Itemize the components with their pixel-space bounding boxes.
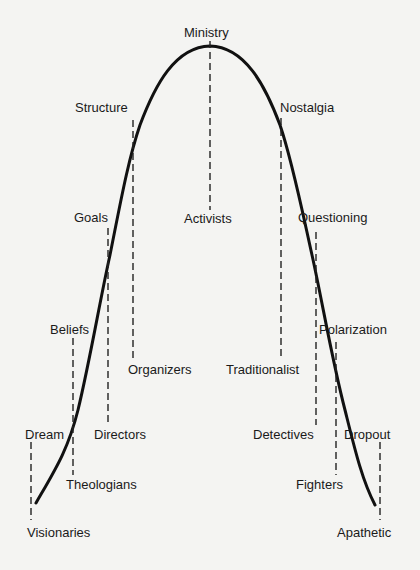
label-structure: Structure — [75, 101, 128, 115]
label-polarization: Polarization — [319, 323, 387, 337]
label-organizers: Organizers — [128, 363, 192, 377]
label-directors: Directors — [94, 428, 146, 442]
label-theologians: Theologians — [66, 478, 137, 492]
label-visionaries: Visionaries — [27, 526, 90, 540]
label-apathetic: Apathetic — [337, 526, 391, 540]
label-dream: Dream — [25, 428, 64, 442]
bell-curve-diagram — [0, 0, 420, 570]
label-activists: Activists — [184, 212, 232, 226]
label-detectives: Detectives — [253, 428, 314, 442]
label-questioning: Questioning — [298, 211, 367, 225]
label-fighters: Fighters — [296, 478, 343, 492]
label-dropout: Dropout — [344, 428, 390, 442]
label-beliefs: Beliefs — [50, 323, 89, 337]
label-nostalgia: Nostalgia — [280, 101, 334, 115]
label-traditionalist: Traditionalist — [226, 363, 299, 377]
label-goals: Goals — [74, 211, 108, 225]
label-ministry: Ministry — [184, 26, 229, 40]
